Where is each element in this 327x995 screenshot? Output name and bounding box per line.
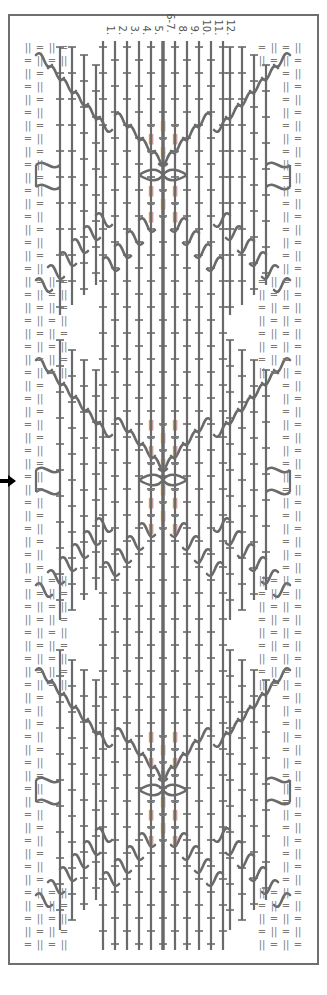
svg-text:||: ||	[25, 94, 32, 106]
svg-text:||: ||	[283, 679, 290, 691]
svg-text:||: ||	[37, 315, 44, 327]
svg-text:||: ||	[160, 822, 167, 834]
svg-text:||: ||	[160, 146, 167, 158]
svg-text:=: =	[36, 172, 44, 183]
svg-text:||: ||	[283, 523, 290, 535]
svg-text:=: =	[48, 913, 56, 924]
crossing-curve	[226, 105, 242, 119]
svg-text:=: =	[282, 172, 290, 183]
svg-text:||: ||	[172, 757, 179, 769]
svg-text:1.: 1.	[105, 26, 116, 36]
svg-text:=: =	[36, 614, 44, 625]
svg-text:=: =	[24, 731, 32, 742]
svg-text:||: ||	[160, 458, 167, 470]
svg-text:||: ||	[259, 601, 266, 613]
svg-text:||: ||	[148, 809, 155, 821]
svg-text:=: =	[294, 367, 302, 378]
svg-text:||: ||	[37, 523, 44, 535]
svg-text:=: =	[270, 653, 278, 664]
svg-text:||: ||	[283, 471, 290, 483]
svg-text:||: ||	[61, 679, 68, 691]
svg-text:||: ||	[172, 445, 179, 457]
svg-text:=: =	[24, 575, 32, 586]
crossing-curve	[183, 431, 199, 445]
svg-text:||: ||	[37, 679, 44, 691]
svg-text:=: =	[36, 380, 44, 391]
svg-text:=: =	[258, 328, 266, 339]
svg-text:=: =	[270, 315, 278, 326]
svg-text:||: ||	[37, 783, 44, 795]
svg-text:||: ||	[283, 601, 290, 613]
svg-text:=: =	[60, 302, 68, 313]
svg-text:=: =	[282, 718, 290, 729]
svg-text:=: =	[294, 549, 302, 560]
svg-text:=: =	[294, 497, 302, 508]
svg-text:=: =	[171, 458, 179, 469]
svg-text:=: =	[147, 822, 155, 833]
svg-text:=: =	[36, 562, 44, 573]
svg-text:||: ||	[283, 575, 290, 587]
svg-text:=: =	[282, 848, 290, 859]
svg-text:=: =	[36, 250, 44, 261]
svg-text:=: =	[159, 523, 167, 534]
crossing-curve	[72, 544, 88, 558]
svg-text:=: =	[60, 328, 68, 339]
crossing-curve	[195, 549, 211, 563]
svg-text:||: ||	[37, 601, 44, 613]
svg-text:=: =	[60, 640, 68, 651]
svg-text:||: ||	[37, 107, 44, 119]
svg-text:||: ||	[37, 341, 44, 353]
svg-text:=: =	[24, 367, 32, 378]
svg-text:=: =	[36, 198, 44, 209]
svg-text:||: ||	[61, 887, 68, 899]
svg-text:||: ||	[172, 133, 179, 145]
svg-text:=: =	[282, 406, 290, 417]
svg-text:||: ||	[295, 354, 302, 366]
svg-text:=: =	[294, 939, 302, 950]
svg-text:||: ||	[295, 900, 302, 912]
svg-text:||: ||	[295, 588, 302, 600]
svg-text:||: ||	[25, 640, 32, 652]
crossing-curve	[238, 544, 254, 558]
svg-text:||: ||	[25, 926, 32, 938]
svg-text:||: ||	[25, 900, 32, 912]
svg-text:||: ||	[283, 81, 290, 93]
svg-text:=: =	[258, 640, 266, 651]
svg-text:||: ||	[295, 614, 302, 626]
svg-text:||: ||	[61, 289, 68, 301]
svg-text:||: ||	[148, 835, 155, 847]
svg-text:=: =	[36, 770, 44, 781]
svg-text:=: =	[36, 744, 44, 755]
svg-text:=: =	[147, 510, 155, 521]
svg-text:11.: 11.	[213, 19, 224, 35]
svg-text:=: =	[294, 445, 302, 456]
svg-text:=: =	[24, 523, 32, 534]
crossing-curve	[60, 384, 76, 398]
svg-text:=: =	[282, 354, 290, 365]
svg-text:=: =	[159, 731, 167, 742]
svg-text:||: ||	[283, 809, 290, 821]
svg-text:||: ||	[271, 640, 278, 652]
svg-text:=: =	[36, 536, 44, 547]
svg-text:||: ||	[49, 42, 56, 54]
svg-text:=: =	[282, 120, 290, 131]
svg-text:||: ||	[160, 198, 167, 210]
svg-text:||: ||	[295, 276, 302, 288]
svg-text:=: =	[282, 302, 290, 313]
svg-text:||: ||	[25, 848, 32, 860]
svg-text:||: ||	[295, 328, 302, 340]
svg-text:||: ||	[283, 419, 290, 431]
svg-text:||: ||	[271, 926, 278, 938]
svg-text:10.: 10.	[201, 19, 212, 35]
svg-text:=: =	[36, 94, 44, 105]
svg-text:||: ||	[37, 133, 44, 145]
svg-text:||: ||	[148, 419, 155, 431]
svg-text:||: ||	[49, 302, 56, 314]
svg-text:||: ||	[283, 237, 290, 249]
crossing-curve	[72, 397, 88, 411]
svg-text:=: =	[282, 692, 290, 703]
svg-text:||: ||	[259, 55, 266, 67]
svg-text:||: ||	[172, 211, 179, 223]
svg-text:||: ||	[25, 328, 32, 340]
svg-text:=: =	[48, 289, 56, 300]
